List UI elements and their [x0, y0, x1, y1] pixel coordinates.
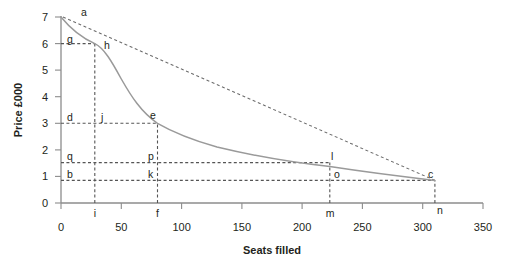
y-ticklabel-1: 1 [42, 170, 48, 182]
point-label-i: i [94, 207, 96, 219]
x-ticklabel-0: 0 [58, 221, 64, 233]
x-ticklabel-350: 350 [474, 221, 492, 233]
y-ticklabel-0: 0 [42, 197, 48, 209]
x-axis-ticks [61, 203, 483, 209]
point-label-q: q [67, 150, 73, 162]
point-label-j: j [100, 111, 103, 123]
y-ticklabel-3: 3 [42, 117, 48, 129]
point-label-l: l [331, 150, 333, 162]
point-label-d: d [67, 111, 73, 123]
point-label-c: c [428, 168, 433, 180]
point-label-a: a [81, 6, 87, 18]
point-label-g: g [67, 33, 73, 45]
x-axis-title: Seats filled [243, 244, 301, 256]
x-ticklabel-200: 200 [293, 221, 311, 233]
y-ticklabel-6: 6 [42, 38, 48, 50]
x-ticklabel-300: 300 [414, 221, 432, 233]
y-axis-ticks [55, 17, 61, 203]
y-ticklabel-4: 4 [42, 91, 48, 103]
chord-a-to-c [63, 17, 435, 180]
y-axis-tick-labels: 0 1 2 3 4 5 6 7 [42, 11, 48, 209]
point-label-n: n [437, 204, 443, 216]
x-ticklabel-150: 150 [233, 221, 251, 233]
axes-group [61, 16, 483, 203]
point-label-e: e [150, 109, 156, 121]
y-ticklabel-5: 5 [42, 64, 48, 76]
x-ticklabel-250: 250 [353, 221, 371, 233]
y-axis-title: Price £000 [12, 83, 24, 137]
point-label-f: f [156, 207, 159, 219]
point-label-o: o [334, 168, 340, 180]
y-ticklabel-7: 7 [42, 11, 48, 23]
guide-lines-group [61, 44, 435, 203]
x-ticklabel-50: 50 [115, 221, 127, 233]
x-ticklabel-100: 100 [172, 221, 190, 233]
point-label-h: h [104, 39, 110, 51]
point-label-b: b [67, 168, 73, 180]
point-label-k: k [148, 168, 154, 180]
y-ticklabel-2: 2 [42, 144, 48, 156]
chart-container: 0 1 2 3 4 5 6 7 0 50 100 150 200 2 [0, 0, 517, 266]
point-label-p: p [148, 150, 154, 162]
point-label-m: m [326, 207, 335, 219]
x-axis-tick-labels: 0 50 100 150 200 250 300 350 [58, 221, 492, 233]
point-annotations-group: a g h d j e q p b k l o c i f m n [67, 6, 443, 219]
price-vs-seats-chart: 0 1 2 3 4 5 6 7 0 50 100 150 200 2 [0, 0, 517, 266]
